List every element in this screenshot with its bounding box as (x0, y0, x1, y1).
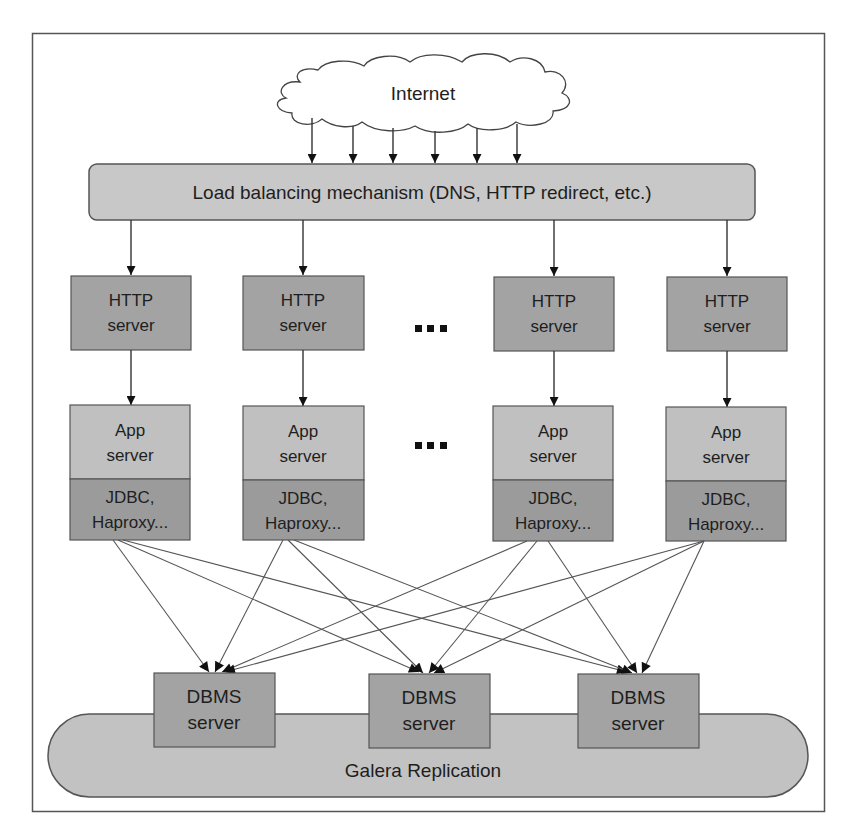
svg-text:server: server (403, 713, 456, 734)
app-server-3: App server JDBC, Haproxy... (493, 406, 613, 541)
galera-replication-label: Galera Replication (345, 760, 501, 781)
svg-text:App: App (538, 422, 568, 441)
svg-text:server: server (107, 316, 155, 335)
connector-label: JDBC, (701, 490, 750, 509)
connector-label: Haproxy... (688, 515, 764, 534)
svg-text:HTTP: HTTP (109, 291, 153, 310)
connector-label: Haproxy... (515, 514, 591, 533)
connector-label: Haproxy... (92, 513, 168, 532)
http-server-4: HTTP server (667, 277, 787, 351)
load-balancer: Load balancing mechanism (DNS, HTTP redi… (89, 164, 755, 220)
app-server-2: App server JDBC, Haproxy... (243, 406, 364, 540)
ellipsis-http-row (415, 325, 447, 332)
svg-text:server: server (702, 448, 750, 467)
svg-text:DBMS: DBMS (611, 687, 666, 708)
architecture-diagram: Galera Replication Internet Load balanci… (0, 0, 845, 840)
connector-label: JDBC, (528, 489, 577, 508)
svg-text:server: server (106, 446, 154, 465)
http-server-3: HTTP server (494, 277, 614, 351)
svg-text:server: server (279, 447, 327, 466)
app-server-1: App server JDBC, Haproxy... (70, 405, 190, 540)
connector-label: JDBC, (105, 488, 154, 507)
svg-text:server: server (188, 712, 241, 733)
svg-text:App: App (115, 421, 145, 440)
svg-text:App: App (288, 422, 318, 441)
svg-text:HTTP: HTTP (705, 292, 749, 311)
svg-text:server: server (612, 713, 665, 734)
svg-text:HTTP: HTTP (532, 292, 576, 311)
dbms-server-1: DBMS server (154, 673, 275, 747)
connector-label: JDBC, (278, 489, 327, 508)
svg-text:App: App (711, 423, 741, 442)
internet-label: Internet (391, 83, 456, 104)
svg-text:server: server (703, 317, 751, 336)
connector-label: Haproxy... (265, 514, 341, 533)
svg-text:server: server (279, 316, 327, 335)
load-balancer-label: Load balancing mechanism (DNS, HTTP redi… (193, 182, 652, 203)
svg-text:DBMS: DBMS (187, 686, 242, 707)
svg-text:HTTP: HTTP (281, 291, 325, 310)
svg-text:DBMS: DBMS (402, 687, 457, 708)
svg-text:server: server (530, 317, 578, 336)
svg-text:server: server (529, 447, 577, 466)
dbms-server-2: DBMS server (369, 674, 490, 748)
http-server-2: HTTP server (243, 276, 364, 350)
http-server-1: HTTP server (71, 276, 191, 350)
app-server-4: App server JDBC, Haproxy... (666, 407, 786, 541)
dbms-server-3: DBMS server (578, 674, 699, 748)
ellipsis-app-row (415, 442, 447, 449)
